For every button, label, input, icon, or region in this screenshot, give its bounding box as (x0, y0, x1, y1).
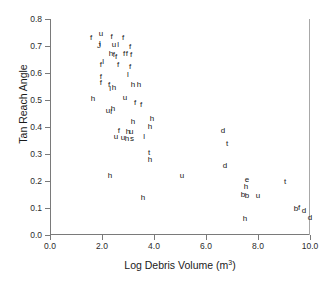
data-point-marker: J (97, 42, 101, 50)
data-point-marker: u (112, 41, 116, 49)
y-tick-label: 0.3 (30, 150, 42, 159)
data-point-marker: h (131, 118, 135, 126)
data-point-marker: h (112, 84, 116, 92)
y-tick-mark (45, 100, 50, 101)
data-point-marker: d (302, 207, 306, 215)
data-point-marker: d (221, 127, 225, 135)
data-point-marker: b (245, 192, 249, 200)
data-point-marker: t (284, 178, 286, 186)
data-point-marker: h (131, 81, 135, 89)
data-point-marker: f (100, 79, 102, 87)
x-tick-mark (310, 235, 311, 240)
x-tick-mark (102, 235, 103, 240)
data-point-marker: u (99, 30, 103, 38)
y-tick-mark (45, 46, 50, 47)
data-point-marker: f (115, 53, 117, 61)
data-point-marker: h (125, 135, 129, 143)
y-tick-label: 0.4 (30, 123, 42, 132)
x-tick-label: 8.0 (252, 242, 264, 251)
x-tick-label: 4.0 (148, 242, 160, 251)
data-point-marker: h (91, 95, 95, 103)
y-tick-label: 0.8 (30, 15, 42, 24)
data-point-marker: s (130, 135, 134, 143)
x-tick-label: 10.0 (302, 242, 319, 251)
x-tick-label: 6.0 (200, 242, 212, 251)
x-tick-mark (258, 235, 259, 240)
data-point-marker: f (126, 50, 128, 58)
data-point-marker: f (122, 34, 124, 42)
y-tick-mark (45, 208, 50, 209)
y-tick-label: 0.2 (30, 177, 42, 186)
y-tick-label: 0.6 (30, 69, 42, 78)
data-point-marker: f (140, 101, 142, 109)
data-point-marker: d (223, 162, 227, 170)
data-point-marker: f (298, 204, 300, 212)
data-point-marker: u (256, 192, 260, 200)
data-point-marker: u (180, 172, 184, 180)
x-tick-label: 2.0 (96, 242, 108, 251)
data-point-marker: h (243, 215, 247, 223)
x-tick-mark (154, 235, 155, 240)
y-tick-mark (45, 154, 50, 155)
data-point-marker: f (130, 51, 132, 59)
scatter-plot-figure: Tan Reach Angle Log Debris Volume (m3) 0… (0, 0, 334, 286)
data-point-marker: d (308, 214, 312, 222)
data-point-marker: h (148, 156, 152, 164)
data-point-marker: f (90, 34, 92, 42)
y-tick-mark (45, 127, 50, 128)
data-point-marker: l (109, 85, 111, 93)
data-point-marker: f (134, 99, 136, 107)
y-axis-label: Tan Reach Angle (17, 19, 29, 189)
y-tick-label: 0.1 (30, 204, 42, 213)
data-point-marker: t (226, 140, 228, 148)
x-axis-label: Log Debris Volume (m3) (50, 259, 310, 271)
x-tick-label: 0.0 (44, 242, 56, 251)
y-tick-label: 0.0 (30, 231, 42, 240)
y-tick-mark (45, 73, 50, 74)
y-tick-label: 0.5 (30, 96, 42, 105)
y-tick-label: 0.7 (30, 42, 42, 51)
data-point-marker: h (108, 172, 112, 180)
data-point-marker: l (127, 71, 129, 79)
data-point-marker: h (137, 81, 141, 89)
data-point-marker: l (143, 133, 145, 141)
data-point-marker: l (117, 41, 119, 49)
data-point-marker: h (148, 123, 152, 131)
x-axis-label-base: Log Debris Volume (m (124, 259, 228, 271)
y-tick-mark (45, 181, 50, 182)
x-axis-label-tail: ) (232, 259, 236, 271)
data-point-marker: f (117, 61, 119, 69)
data-point-marker: h (141, 194, 145, 202)
data-point-marker: u (123, 94, 127, 102)
x-tick-mark (206, 235, 207, 240)
plot-area (50, 19, 310, 235)
x-tick-mark (50, 235, 51, 240)
data-point-marker: l (110, 108, 112, 116)
plot-right-spine (309, 19, 310, 235)
data-point-marker: u (114, 133, 118, 141)
data-point-marker: l (102, 58, 104, 66)
y-tick-mark (45, 19, 50, 20)
data-point-marker: f (129, 63, 131, 71)
